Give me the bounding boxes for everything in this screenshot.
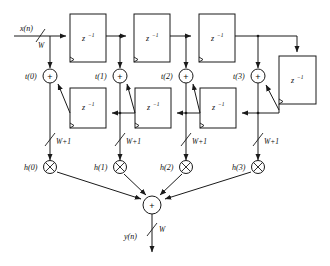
coefficient-label-1: h(1) xyxy=(94,163,108,172)
tap-node-label-1: t(1) xyxy=(95,72,107,81)
top-delay-2[interactable]: z −1 xyxy=(199,14,235,62)
input-label: x(n) xyxy=(19,24,33,33)
bottom-delay-2[interactable]: z −1 xyxy=(200,88,236,128)
output-adder[interactable]: + xyxy=(143,196,161,214)
multiplier-2[interactable] xyxy=(180,161,193,174)
tap-adder-1-symbol: + xyxy=(117,72,122,82)
input-signal-group: x(n) W xyxy=(14,24,66,50)
summation-wires xyxy=(57,172,251,199)
top-delay-2-exp: −1 xyxy=(217,32,224,38)
feedback-delay-group: z −1 xyxy=(266,36,316,113)
tap-adder-3[interactable]: + xyxy=(251,69,265,83)
input-width-label: W xyxy=(38,41,45,50)
tap-width-label-2: W+1 xyxy=(192,137,207,146)
bottom-delay-0[interactable]: z −1 xyxy=(70,88,106,128)
tap-node-label-3: t(3) xyxy=(233,72,245,81)
output-width-label: W xyxy=(159,225,166,234)
feedback-delay-exp: −1 xyxy=(297,74,304,80)
tap-node-label-2: t(2) xyxy=(161,72,173,81)
bottom-delay-0-exp: −1 xyxy=(88,101,95,107)
tap-adder-2[interactable]: + xyxy=(179,69,193,83)
tap-adder-1[interactable]: + xyxy=(113,69,127,83)
tap-adder-0-symbol: + xyxy=(47,72,52,82)
coefficient-label-0: h(0) xyxy=(24,163,38,172)
tap-width-label-0: W+1 xyxy=(56,137,71,146)
fir-filter-diagram: x(n) W z −1 z −1 z −1 xyxy=(0,0,330,266)
coefficient-multipliers: h(0) h(1) h(2) h(3) xyxy=(24,161,265,174)
multiplier-3[interactable] xyxy=(252,161,265,174)
feedback-delay[interactable]: z −1 xyxy=(279,56,316,104)
top-delay-chain: z −1 z −1 z −1 xyxy=(70,14,297,62)
tap-width-label-1: W+1 xyxy=(126,137,141,146)
tap-adder-2-symbol: + xyxy=(183,72,188,82)
bottom-delay-1[interactable]: z −1 xyxy=(135,88,171,128)
output-label: y(n) xyxy=(123,232,137,241)
top-delay-0[interactable]: z −1 xyxy=(70,14,106,62)
bottom-delay-chain: z −1 z −1 z −1 xyxy=(58,84,268,128)
top-delay-0-exp: −1 xyxy=(88,32,95,38)
tap-adders: + t(0) + t(1) + t(2) + t(3) xyxy=(25,69,265,83)
tap-adder-3-symbol: + xyxy=(255,72,260,82)
output-adder-symbol: + xyxy=(149,201,154,211)
multiplier-0[interactable] xyxy=(44,161,57,174)
top-delay-1[interactable]: z −1 xyxy=(134,14,170,62)
bottom-delay-1-exp: −1 xyxy=(153,101,160,107)
tap-node-label-0: t(0) xyxy=(25,72,37,81)
tap-width-label-3: W+1 xyxy=(264,137,279,146)
coefficient-label-2: h(2) xyxy=(160,163,174,172)
tap-adder-0[interactable]: + xyxy=(43,69,57,83)
output-signal-group: y(n) W xyxy=(123,214,166,252)
bottom-delay-2-exp: −1 xyxy=(218,101,225,107)
coefficient-label-3: h(3) xyxy=(232,163,246,172)
multiplier-1[interactable] xyxy=(114,161,127,174)
top-delay-1-exp: −1 xyxy=(152,32,159,38)
